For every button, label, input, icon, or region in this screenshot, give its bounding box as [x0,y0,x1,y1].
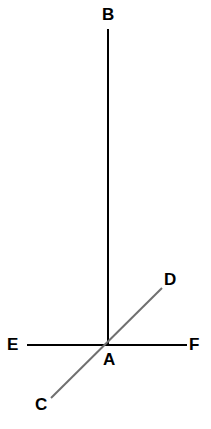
point-label-c: C [35,396,47,413]
point-label-f: F [189,336,199,353]
line-segment-CD [51,288,162,398]
point-label-d: D [164,271,176,288]
point-label-e: E [7,336,18,353]
point-label-b: B [102,6,114,23]
geometry-diagram-canvas: B D E A F C [0,0,211,429]
point-label-a: A [103,351,115,368]
